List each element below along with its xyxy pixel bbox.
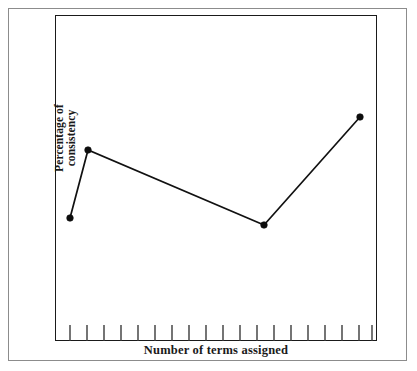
data-series-line (70, 117, 360, 225)
data-point-marker (67, 215, 74, 222)
data-point-marker-group (67, 114, 364, 229)
figure-container: Percentage of consistency Number of term… (0, 0, 417, 371)
y-axis-label: Percentage of consistency (45, 73, 85, 203)
data-point-marker (261, 222, 268, 229)
data-point-marker (85, 147, 92, 154)
x-axis-tick-group (70, 325, 372, 341)
y-axis-label-line2: consistency (65, 110, 77, 167)
x-axis-label: Number of terms assigned (55, 343, 377, 358)
data-point-marker (357, 114, 364, 121)
y-axis-label-line1: Percentage of (53, 104, 65, 172)
